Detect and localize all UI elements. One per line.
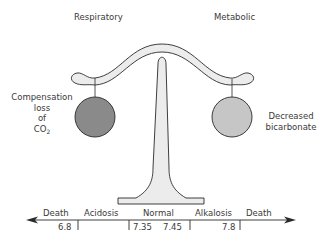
- left-weight-circle: [75, 97, 115, 137]
- zone-death-left: Death: [43, 209, 69, 218]
- zone-death-right: Death: [246, 209, 272, 218]
- zone-normal: Normal: [143, 209, 174, 218]
- left-label-line-4: CO2: [8, 124, 76, 138]
- tick-label-7.45: 7.45: [163, 223, 182, 232]
- right-label-line-2: bicarbonate: [258, 122, 324, 133]
- left-weight-label: Compensation loss of CO2: [8, 92, 76, 137]
- respiratory-label: Respiratory: [74, 13, 123, 22]
- right-weight-label: Decreased bicarbonate: [258, 111, 324, 132]
- tick-label-7.8: 7.8: [222, 223, 236, 232]
- left-label-line-2: loss: [8, 103, 76, 114]
- zone-alkalosis: Alkalosis: [195, 209, 232, 218]
- right-label-line-1: Decreased: [258, 111, 324, 122]
- left-label-line-1: Compensation: [8, 92, 76, 103]
- zone-acidosis: Acidosis: [84, 209, 119, 218]
- scale-stand: [118, 57, 204, 204]
- tick-label-7.35: 7.35: [133, 223, 152, 232]
- left-label-line-3: of: [8, 113, 76, 124]
- tick-label-6.8: 6.8: [58, 223, 72, 232]
- metabolic-label: Metabolic: [214, 13, 255, 22]
- right-weight-circle: [212, 97, 252, 137]
